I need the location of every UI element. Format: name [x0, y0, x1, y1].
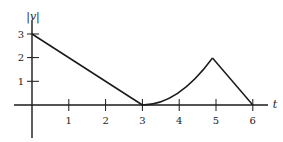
x-tick-label-1: 1	[66, 115, 72, 126]
x-tick-label-4: 4	[176, 115, 182, 126]
speed-chart: 1 2 3 4 5 6 1 2 3 |v| t	[0, 0, 283, 142]
x-tick-label-3: 3	[139, 115, 145, 126]
x-tick-labels: 1 2 3 4 5 6	[66, 115, 256, 126]
speed-curve	[32, 34, 253, 105]
x-tick-label-5: 5	[213, 115, 219, 126]
y-tick-label-3: 3	[18, 29, 24, 40]
segment-linear-decrease	[32, 34, 142, 105]
x-axis-label: t	[273, 98, 278, 111]
y-tick-labels: 1 2 3	[18, 29, 24, 87]
y-ticks	[27, 34, 39, 81]
y-tick-label-1: 1	[18, 76, 24, 87]
x-tick-label-2: 2	[102, 115, 108, 126]
y-tick-label-2: 2	[18, 52, 24, 63]
segment-linear-drop	[213, 58, 253, 105]
x-tick-label-6: 6	[250, 115, 256, 126]
segment-concave-up	[142, 58, 212, 105]
y-axis-label: |v|	[26, 10, 40, 24]
